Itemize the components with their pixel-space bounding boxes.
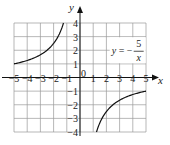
x-axis-label: x <box>157 74 163 86</box>
x-tick-label: 2 <box>104 73 109 84</box>
y-tick-label: −2 <box>67 100 78 111</box>
curve-right-branch <box>97 91 147 132</box>
x-tick-label: −1 <box>61 73 72 84</box>
y-tick-label: −1 <box>67 86 78 97</box>
curve-left-branch <box>14 23 64 64</box>
y-tick-label: −4 <box>67 127 78 138</box>
x-tick-label: −3 <box>35 73 46 84</box>
y-axis-arrow-icon <box>77 6 83 13</box>
origin-label: 0 <box>81 68 86 79</box>
hyperbola-chart: −5−4−3−2−1123454321−1−2−3−4 x y 0 y = − … <box>0 0 170 145</box>
equation-equals: = <box>119 45 125 56</box>
y-axis-label: y <box>68 1 74 13</box>
x-tick-label: −5 <box>9 73 20 84</box>
y-tick-label: −3 <box>67 113 78 124</box>
equation-lhs: y <box>111 45 117 56</box>
y-tick-label: 3 <box>73 32 78 43</box>
x-tick-label: 5 <box>144 73 149 84</box>
y-tick-label: 1 <box>73 59 78 70</box>
x-tick-label: 1 <box>91 73 96 84</box>
y-tick-label: 2 <box>73 45 78 56</box>
equation-sign: − <box>127 45 133 56</box>
equation-annotation: y = − 5 x <box>110 37 146 63</box>
equation-numerator: 5 <box>136 38 141 49</box>
x-tick-label: −2 <box>48 73 59 84</box>
y-tick-label: 4 <box>73 18 78 29</box>
x-tick-label: −4 <box>22 73 33 84</box>
equation-denominator: x <box>135 52 141 63</box>
x-tick-label: 4 <box>130 73 135 84</box>
x-tick-label: 3 <box>117 73 122 84</box>
